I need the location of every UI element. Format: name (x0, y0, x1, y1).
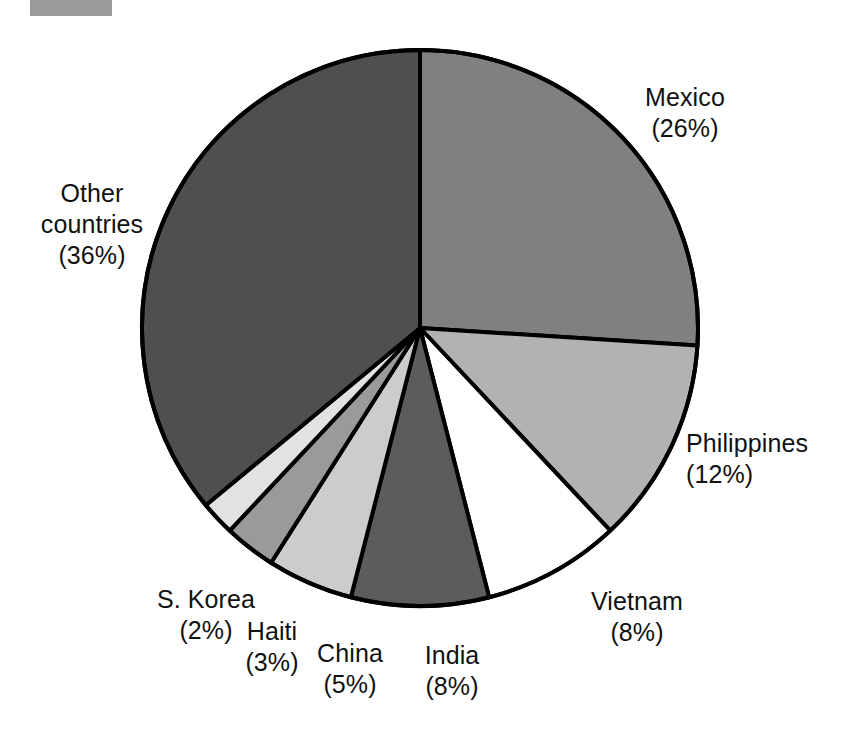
slice-label-mexico-percent: (26%) (600, 113, 770, 144)
slice-label-s-korea-percent: (2%) (138, 615, 274, 646)
slice-label-india-name: India (392, 640, 512, 671)
slice-label-s-korea-name: S. Korea (138, 584, 274, 615)
slice-label-other-countries-name-line1: Other (12, 178, 172, 209)
slice-label-philippines-percent: (12%) (686, 459, 841, 490)
slice-label-other-countries-name-line2: countries (12, 209, 172, 240)
slice-label-mexico-name: Mexico (600, 82, 770, 113)
slice-label-philippines-name: Philippines (686, 428, 841, 459)
slice-label-india-percent: (8%) (392, 671, 512, 702)
slice-label-philippines: Philippines (12%) (686, 428, 841, 490)
slice-label-other-countries: Other countries (36%) (12, 178, 172, 271)
slice-label-mexico: Mexico (26%) (600, 82, 770, 144)
slice-label-india: India (8%) (392, 640, 512, 702)
slice-label-vietnam: Vietnam (8%) (552, 586, 722, 648)
slice-label-haiti-percent: (3%) (222, 647, 322, 678)
slice-label-s-korea: S. Korea (2%) (138, 584, 274, 646)
slice-label-vietnam-percent: (8%) (552, 617, 722, 648)
slice-label-vietnam-name: Vietnam (552, 586, 722, 617)
slice-label-other-countries-percent: (36%) (12, 240, 172, 271)
